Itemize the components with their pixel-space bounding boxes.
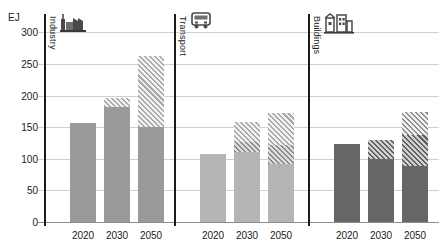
- bar-buildings-2050: [402, 26, 428, 222]
- panel-transport: Transport 202020302050: [174, 0, 300, 251]
- x-axis-label-2050: 2050: [398, 230, 432, 241]
- panel-label-buildings: Buildings: [312, 16, 322, 54]
- x-axis-label-2030: 2030: [364, 230, 398, 241]
- bar-industry-2050: [138, 26, 164, 222]
- bar-segment-hatch: [138, 56, 164, 127]
- y-axis-tick-300: 300: [4, 27, 38, 38]
- bar-segment-solid: [138, 127, 164, 222]
- bar-industry-2030: [104, 26, 130, 222]
- bar-buildings-2020: [334, 26, 360, 222]
- bar-segment-solid: [104, 107, 130, 222]
- x-axis-label-2050: 2050: [264, 230, 298, 241]
- x-axis-label-2030: 2030: [100, 230, 134, 241]
- x-axis-label-2020: 2020: [196, 230, 230, 241]
- panel-industry: Industry 202020302050: [44, 0, 170, 251]
- bar-transport-2020: [200, 26, 226, 222]
- panel-axis-line: [174, 14, 176, 226]
- x-axis-label-2050: 2050: [134, 230, 168, 241]
- panel-label-industry: Industry: [48, 16, 58, 50]
- y-axis-tick-100: 100: [4, 153, 38, 164]
- x-axis-label-2020: 2020: [66, 230, 100, 241]
- bar-segment-hatch: [104, 98, 130, 107]
- bar-segment-hatch-dark: [402, 135, 428, 167]
- bar-segment-hatch-dark: [234, 142, 260, 152]
- y-axis-tick-250: 250: [4, 58, 38, 69]
- bar-buildings-2030: [368, 26, 394, 222]
- bar-segment-hatch-light: [268, 113, 294, 145]
- bar-segment-solid: [268, 164, 294, 222]
- y-axis-tick-0: 0: [4, 217, 38, 228]
- bar-segment-hatch-dark: [368, 140, 394, 159]
- bar-transport-2050: [268, 26, 294, 222]
- bar-segment-solid: [368, 159, 394, 222]
- panel-axis-line: [308, 14, 310, 226]
- x-axis-label-2030: 2030: [230, 230, 264, 241]
- y-axis-tick-200: 200: [4, 90, 38, 101]
- x-axis-label-2020: 2020: [330, 230, 364, 241]
- bar-segment-hatch-light: [234, 122, 260, 142]
- panel-label-transport: Transport: [178, 16, 188, 56]
- bar-segment-hatch-light: [402, 112, 428, 135]
- bar-segment-solid: [234, 152, 260, 222]
- bar-segment-solid: [200, 154, 226, 222]
- bar-segment-solid: [334, 144, 360, 222]
- y-axis-tick-50: 50: [4, 185, 38, 196]
- panel-axis-line: [44, 14, 46, 226]
- grouped-bar-chart: EJ 050100150200250300 Industry 202020302…: [0, 0, 443, 251]
- y-axis-ticks: 050100150200250300: [0, 0, 38, 251]
- bar-segment-hatch-dark: [268, 145, 294, 164]
- bar-segment-solid: [402, 166, 428, 222]
- bar-transport-2030: [234, 26, 260, 222]
- y-axis-tick-150: 150: [4, 122, 38, 133]
- bar-segment-solid: [70, 123, 96, 222]
- panel-buildings: Buildings 202020302050: [308, 0, 434, 251]
- bar-industry-2020: [70, 26, 96, 222]
